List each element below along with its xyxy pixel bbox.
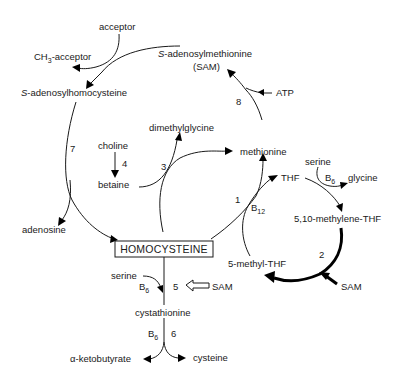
homocysteine-pathway-diagram: HOMOCYSTEINE acceptor CH3-acceptor S-ade… (0, 0, 403, 379)
homocysteine-label: HOMOCYSTEINE (120, 243, 208, 255)
arc-methylthf-to-thf (243, 178, 272, 256)
arc-betaine-to-dmg (139, 140, 177, 187)
arrowhead-ketobutyrate (143, 355, 151, 363)
atp-label: ATP (276, 87, 294, 98)
step-6-label: 6 (171, 328, 176, 339)
b6-top-label: B6 (325, 172, 335, 185)
arrowhead-betaine (111, 170, 119, 178)
cysteine-label: cysteine (193, 352, 228, 363)
open-arrow-sam (186, 280, 209, 291)
arrowhead-ch3-acceptor (72, 64, 80, 72)
step-4-label: 4 (122, 158, 127, 169)
b6-mid-label: B6 (139, 281, 149, 294)
dimethylglycine-label: dimethylglycine (149, 122, 214, 133)
adenosine-label: adenosine (22, 224, 66, 235)
thick-arc-step2 (274, 228, 342, 281)
alpha-ketobutyrate-label: α-ketobutyrate (70, 353, 131, 364)
b6-low-label: B6 (148, 328, 158, 341)
sam-label: S-adenosylmethionine (158, 48, 252, 59)
arrowhead-thf (268, 175, 278, 182)
arrowhead-cysteine (178, 354, 186, 362)
step-8-label: 8 (236, 96, 241, 107)
arc-sah-to-homocysteine (66, 102, 114, 239)
b12-label: B12 (251, 202, 265, 215)
glycine-label: glycine (348, 172, 378, 183)
ch3-acceptor-label: CH3-acceptor (34, 51, 91, 64)
arc-to-cysteine (164, 342, 178, 358)
choline-label: choline (98, 140, 128, 151)
step-5-label: 5 (173, 281, 178, 292)
arrowhead-atp (258, 89, 264, 96)
acceptor-label: acceptor (99, 21, 135, 32)
sah-label: S-adenosylhomocysteine (21, 87, 127, 98)
step-3-label: 3 (161, 161, 166, 172)
methyl-thf-label: 5-methyl-THF (228, 258, 286, 269)
arrowhead-dmg (175, 132, 182, 141)
step-2-label: 2 (319, 249, 324, 260)
arrowhead-serine-step5 (157, 285, 163, 293)
arrowhead-glycine (340, 182, 348, 189)
sam-mid-label: SAM (212, 281, 233, 292)
thick-line-sam-inhibit (326, 276, 337, 284)
methionine-label: methionine (240, 146, 286, 157)
arc-to-ketobutyrate (150, 342, 164, 359)
arc-adenosine (62, 180, 71, 220)
arrowhead-methyl-thf (264, 271, 275, 283)
cystathionine-label: cystathionine (135, 307, 190, 318)
betaine-label: betaine (98, 179, 129, 190)
step-1-label: 1 (235, 194, 240, 205)
serine-top-label: serine (305, 156, 331, 167)
step-7-label: 7 (70, 143, 75, 154)
thf-label: THF (281, 172, 300, 183)
sam-abbr-label: (SAM) (193, 61, 220, 72)
arc-homocysteine-to-methionine (160, 151, 226, 232)
methylene-thf-label: 5,10-methylene-THF (294, 213, 381, 224)
arrowhead-methionine (225, 147, 233, 155)
serine-bottom-label: serine (111, 270, 137, 281)
sam-right-label: SAM (341, 281, 362, 292)
